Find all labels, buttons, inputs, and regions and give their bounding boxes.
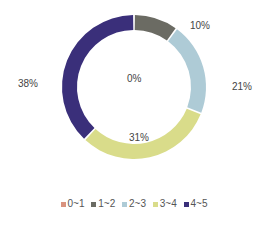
swatch-icon [61,202,66,207]
slice-2-3[interactable] [168,29,206,112]
slice-1-2[interactable] [135,15,176,40]
label-2-3: 21% [232,81,252,92]
legend-item-4-5[interactable]: 4~5 [184,198,208,209]
swatch-icon [153,202,158,207]
swatch-icon [91,202,96,207]
legend-item-0-1[interactable]: 0~1 [61,198,85,209]
swatch-icon [122,202,127,207]
donut-chart [0,0,268,226]
label-1-2: 10% [190,20,210,31]
label-0-1: 0% [127,73,141,84]
label-3-4: 31% [129,132,149,143]
legend-item-1-2[interactable]: 1~2 [91,198,115,209]
legend-item-2-3[interactable]: 2~3 [122,198,146,209]
slice-4-5[interactable] [62,15,133,139]
swatch-icon [184,202,189,207]
legend-item-3-4[interactable]: 3~4 [153,198,177,209]
legend: 0~1 1~2 2~3 3~4 4~5 [0,198,268,209]
label-4-5: 38% [18,78,38,89]
